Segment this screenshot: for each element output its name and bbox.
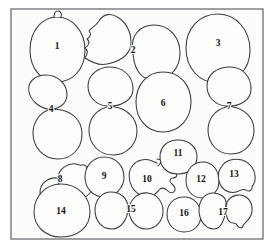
figure-canvas: 1234567891011121314151617 — [0, 0, 276, 252]
cell-outline-path — [54, 11, 61, 17]
cell-label-16: 16 — [179, 208, 189, 218]
cell-label-14: 14 — [56, 206, 66, 216]
cell-outline-path — [132, 25, 180, 80]
cell-label-7: 7 — [227, 101, 232, 111]
cell-label-15: 15 — [126, 204, 136, 214]
cell-label-8: 8 — [58, 174, 63, 184]
cell-outline-path — [33, 109, 82, 159]
cell-outline-path — [208, 106, 254, 154]
cell-label-2: 2 — [131, 45, 136, 55]
cell-outline-figure: 1234567891011121314151617 — [0, 0, 276, 252]
cell-label-17: 17 — [218, 207, 228, 217]
cell-label-1: 1 — [55, 41, 60, 51]
cell-label-13: 13 — [229, 169, 239, 179]
cell-label-4: 4 — [49, 104, 54, 114]
cell-label-5: 5 — [108, 101, 113, 111]
cell-outline-path — [95, 192, 128, 229]
cell-outline-path — [89, 106, 137, 155]
cell-label-3: 3 — [216, 38, 221, 48]
cell-label-11: 11 — [174, 148, 183, 158]
cell-label-9: 9 — [102, 171, 107, 181]
cell-label-10: 10 — [142, 174, 152, 184]
cell-label-6: 6 — [161, 98, 166, 108]
cell-label-12: 12 — [196, 174, 206, 184]
